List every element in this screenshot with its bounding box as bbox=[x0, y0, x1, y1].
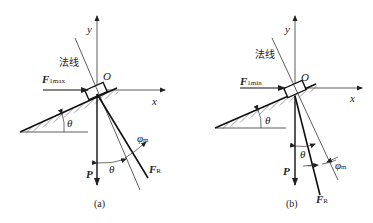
phi-label-b: φm bbox=[335, 160, 347, 171]
resultant-fr-label-b: FR bbox=[316, 194, 328, 205]
caption-b: (b) bbox=[286, 199, 298, 209]
resultant-fr-line-b bbox=[295, 96, 320, 195]
theta-arc-b bbox=[295, 144, 315, 147]
caption-a: (a) bbox=[94, 199, 105, 209]
weight-p-label-a: P bbox=[86, 169, 93, 180]
force-f1min-label: F1min bbox=[240, 76, 262, 87]
phi-label-a: φm bbox=[137, 133, 149, 144]
origin-label-a: O bbox=[103, 71, 111, 82]
theta-label-b: θ bbox=[300, 149, 305, 160]
y-axis-label-b: y bbox=[285, 24, 290, 35]
incline-angle-label-b: θ bbox=[265, 115, 270, 126]
origin-label-b: O bbox=[301, 72, 309, 83]
y-axis-label-a: y bbox=[87, 24, 92, 35]
phi-arrow-left-b bbox=[308, 165, 318, 166]
diagram-stage: y x O 法线 F1max P FR θ θ φm (a) y x O 法线 … bbox=[0, 0, 373, 223]
force-f1max-label: F1max bbox=[42, 74, 65, 85]
theta-label-a: θ bbox=[109, 164, 114, 175]
x-axis-label-a: x bbox=[152, 96, 157, 107]
incline-angle-label-a: θ bbox=[67, 118, 72, 129]
mechanics-diagram bbox=[0, 0, 373, 223]
normal-line-label-b: 法线 bbox=[255, 50, 275, 60]
normal-line-a bbox=[75, 38, 140, 190]
weight-p-label-b: P bbox=[283, 166, 290, 177]
resultant-fr-label-a: FR bbox=[149, 164, 161, 175]
normal-line-label-a: 法线 bbox=[59, 58, 79, 68]
figure-a bbox=[20, 16, 165, 190]
x-axis-label-b: x bbox=[350, 93, 355, 104]
